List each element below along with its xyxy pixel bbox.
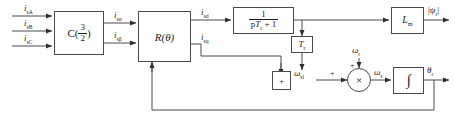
output-label-rotor-flux-magnitude: |ψr| [428, 6, 439, 17]
signal-label-i-s-beta: isβ [114, 31, 122, 42]
rotor-time-constant-label: Tr [299, 39, 306, 51]
input-label-phase-b: isB [24, 19, 32, 30]
signal-label-omega-r: ωr [352, 46, 360, 57]
block-diagram-canvas: isA isB isC C(32) isα isβ R(θ) isd isq 1… [0, 0, 455, 127]
rotor-lag-block[interactable]: 1 pTr + 1 [233, 7, 294, 34]
magnetizing-inductance-label: Lm [402, 14, 412, 27]
slip-sum-sign: + [279, 76, 284, 86]
output-label-theta-r: θr [427, 66, 433, 77]
rotor-lag-fraction: 1 pTr + 1 [249, 10, 278, 32]
synchronous-speed-sum-junction[interactable]: × [347, 68, 371, 92]
input-label-phase-c: isC [24, 34, 32, 45]
slip-frequency-sum-block[interactable]: + [272, 71, 291, 90]
clarke-transform-block[interactable]: C(32) [54, 11, 104, 55]
sum-junction-symbol: × [356, 74, 362, 86]
signal-label-omega-sl: ωsl [294, 69, 304, 80]
park-rotation-block[interactable]: R(θ) [138, 11, 191, 62]
input-label-phase-a: isA [24, 4, 33, 15]
park-block-label: R(θ) [155, 31, 174, 43]
magnetizing-inductance-block[interactable]: Lm [391, 7, 424, 34]
signal-label-i-sq: isq [201, 33, 208, 44]
rotor-time-constant-block[interactable]: Tr [291, 36, 313, 53]
integrator-symbol: ∫ [406, 72, 410, 89]
signal-label-i-sd: isd [201, 8, 208, 19]
signal-label-omega-s: ωs [374, 68, 383, 79]
signal-label-i-s-alpha: isα [114, 11, 122, 22]
integrator-block[interactable]: ∫ [393, 67, 424, 94]
clarke-block-label: C(32) [67, 23, 90, 42]
speed-sum-left-plus-sign: + [330, 70, 335, 78]
